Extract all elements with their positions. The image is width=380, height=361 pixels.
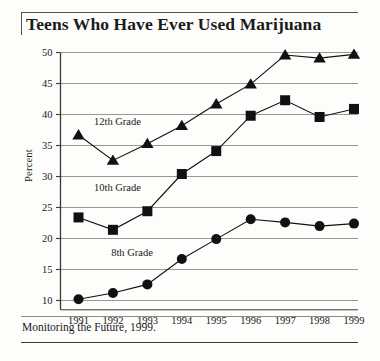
y-tick-label: 50 <box>42 47 53 58</box>
y-tick-labels: 101520253035404550 <box>42 47 53 306</box>
data-point-marker <box>315 112 325 122</box>
data-point-marker <box>72 129 84 139</box>
y-tick-label: 10 <box>42 295 53 306</box>
data-point-marker <box>246 214 256 224</box>
data-point-marker <box>176 120 188 130</box>
series-inline-label: 10th Grade <box>94 182 141 193</box>
source-note: Monitoring the Future, 1999. <box>22 321 156 333</box>
series-inline-label: 8th Grade <box>111 247 153 258</box>
data-point-marker <box>74 294 84 304</box>
y-tick-label: 15 <box>42 264 53 275</box>
y-tick-label: 40 <box>42 109 53 120</box>
data-point-marker <box>348 48 360 58</box>
footer-top-rule <box>21 316 358 317</box>
data-point-marker <box>177 169 187 179</box>
gridlines <box>61 53 359 301</box>
data-point-marker <box>280 217 290 227</box>
series-inline-label: 12th Grade <box>94 116 141 127</box>
data-point-marker <box>108 288 118 298</box>
data-point-marker <box>177 254 187 264</box>
data-point-marker <box>315 221 325 231</box>
y-tick-label: 45 <box>42 78 53 89</box>
data-point-marker <box>349 219 359 229</box>
y-axis-label: Percent <box>23 131 34 201</box>
y-tick-label: 20 <box>42 233 53 244</box>
footer-bottom-rule <box>21 342 358 343</box>
y-axis <box>56 53 61 310</box>
line-chart-svg: 101520253035404550 199119921993199419951… <box>0 0 380 361</box>
data-point-marker <box>279 49 291 59</box>
data-point-marker <box>210 98 222 108</box>
data-point-marker <box>211 234 221 244</box>
data-point-marker <box>246 111 256 121</box>
data-point-marker <box>349 104 359 114</box>
data-point-marker <box>142 206 152 216</box>
y-tick-label: 25 <box>42 202 53 213</box>
chart-figure: Teens Who Have Ever Used Marijuana 10152… <box>0 0 380 361</box>
data-point-marker <box>280 95 290 105</box>
data-point-marker <box>211 146 221 156</box>
y-tick-label: 35 <box>42 140 53 151</box>
data-point-marker <box>107 154 119 164</box>
series-inline-labels: 12th Grade10th Grade8th Grade <box>94 116 153 258</box>
y-tick-label: 30 <box>42 171 53 182</box>
data-point-marker <box>141 138 153 148</box>
plot-area: 101520253035404550 199119921993199419951… <box>0 0 380 361</box>
data-point-marker <box>74 212 84 222</box>
data-point-marker <box>142 279 152 289</box>
data-point-marker <box>108 225 118 235</box>
